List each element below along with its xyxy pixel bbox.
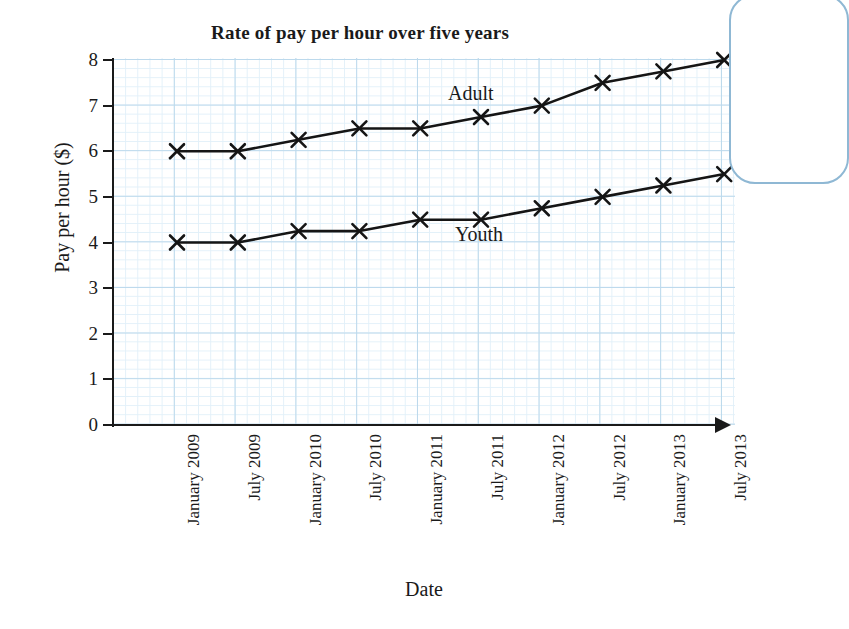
adult-series-line <box>177 60 724 151</box>
youth-series-line <box>177 174 724 242</box>
youth-series-markers <box>170 167 731 249</box>
youth-series-label: Youth <box>455 223 503 246</box>
decorative-rounded-panel <box>729 0 849 184</box>
adult-series-markers <box>170 53 731 158</box>
adult-series-label: Adult <box>448 82 494 105</box>
